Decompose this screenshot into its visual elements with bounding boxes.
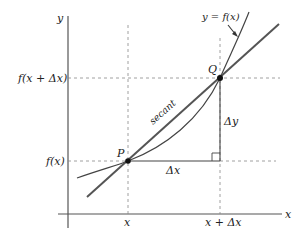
x-axis-label: x [285,208,292,221]
tick-label-x: x [124,216,131,229]
secant-line [87,24,279,197]
right-angle-marker [212,153,220,161]
point-q-label: Q [208,63,217,76]
tick-label-fx-plus-dx: f(x + Δx) [17,72,67,85]
secant-label: secant [147,97,178,126]
tick-label-x-plus-dx: x + Δx [205,216,242,229]
delta-x-label: Δx [165,164,181,177]
secant-diagram: y x y = f(x) secant P Q Δx Δy x x + Δx f… [0,0,307,238]
point-p [125,158,131,164]
curve-f [77,12,249,178]
delta-y-label: Δy [223,115,239,128]
tick-label-fx: f(x) [45,155,65,168]
point-q [217,75,223,81]
point-p-label: P [116,147,125,160]
curve-label: y = f(x) [201,11,240,22]
y-axis-label: y [56,12,64,25]
